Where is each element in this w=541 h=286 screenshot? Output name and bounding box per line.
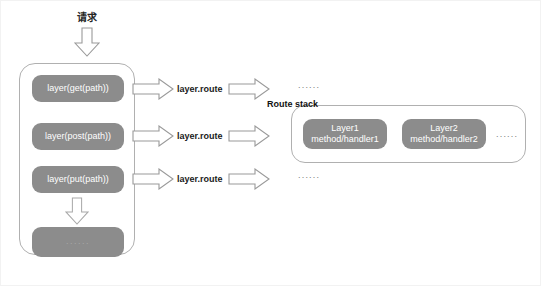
route-trailing-dots-3: ......	[298, 170, 320, 180]
route-caption-1: layer.route	[177, 84, 223, 94]
route-arrow-3a-icon	[132, 168, 174, 190]
route-stack-layer-2-name: Layer2	[430, 123, 458, 133]
route-trailing-dots-1: ......	[298, 80, 320, 90]
request-label: 请求	[59, 9, 115, 24]
layer-pill-get-label: layer(get(path))	[47, 83, 109, 94]
route-arrow-1b-icon	[228, 78, 270, 100]
route-stack-layer-2[interactable]: Layer2 method/handler2	[402, 119, 486, 149]
route-stack-layer-1-handler: method/handler1	[311, 134, 379, 144]
route-arrow-1a-icon	[132, 78, 174, 100]
route-stack-title: Route stack	[267, 99, 318, 109]
layer-pill-more-label: ......	[66, 236, 90, 247]
route-caption-2: layer.route	[177, 131, 223, 141]
layer-pill-more: ......	[32, 227, 124, 257]
layer-pill-get[interactable]: layer(get(path))	[32, 75, 124, 102]
route-stack-more-dots: ......	[496, 129, 518, 139]
request-down-arrow-icon	[74, 27, 100, 57]
route-stack-layer-2-label: Layer2 method/handler2	[410, 123, 478, 146]
route-arrow-2b-icon	[228, 125, 270, 147]
layer-pill-post-label: layer(post(path))	[45, 131, 111, 142]
diagram-canvas: 请求 layer(get(path)) layer(post(path)) la…	[0, 0, 541, 286]
layer-pill-put-label: layer(put(path))	[47, 174, 109, 185]
layer-pill-put[interactable]: layer(put(path))	[32, 166, 124, 193]
route-stack-layer-1-label: Layer1 method/handler1	[311, 123, 379, 146]
route-stack-layer-1-name: Layer1	[331, 123, 359, 133]
route-stack-layer-1[interactable]: Layer1 method/handler1	[303, 119, 387, 149]
layer-pill-post[interactable]: layer(post(path))	[32, 123, 124, 150]
route-stack-layer-2-handler: method/handler2	[410, 134, 478, 144]
route-caption-3: layer.route	[177, 174, 223, 184]
route-arrow-2a-icon	[132, 125, 174, 147]
route-arrow-3b-icon	[228, 168, 270, 190]
router-inner-down-arrow-icon	[65, 197, 89, 225]
